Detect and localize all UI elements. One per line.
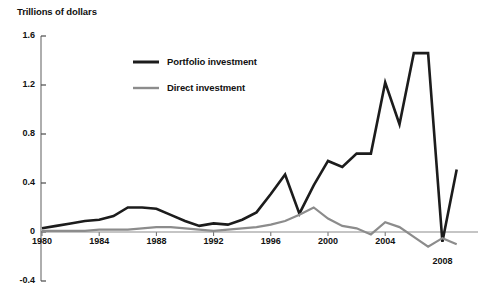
legend-swatch-layer: [133, 62, 159, 88]
legend-label-direct: Direct investment: [167, 82, 245, 93]
x-tick-label: 1980: [22, 236, 62, 246]
legend-label-portfolio: Portfolio investment: [167, 56, 257, 67]
y-tick-label: 0: [5, 226, 35, 236]
y-tick-label: 0.8: [5, 128, 35, 138]
y-tick-label: 1.2: [5, 79, 35, 89]
x-tick-label: 1996: [251, 236, 291, 246]
chart-plot-area: [0, 0, 486, 301]
x-tick-label: 1984: [79, 236, 119, 246]
series-line-portfolio: [42, 53, 457, 242]
data-series-layer: [42, 53, 457, 247]
y-tick-label: 0.4: [5, 177, 35, 187]
x-tick-label: 1992: [194, 236, 234, 246]
x-tick-label: 2000: [308, 236, 348, 246]
x-tick-label: 1988: [136, 236, 176, 246]
x-tick-label: 2004: [365, 236, 405, 246]
y-tick-label: -0.4: [5, 275, 35, 285]
x-tick-label: 2008: [422, 256, 462, 266]
chart-container: Trillions of dollars 1.61.20.80.40-0.4 1…: [0, 0, 486, 301]
y-tick-label: 1.6: [5, 30, 35, 40]
